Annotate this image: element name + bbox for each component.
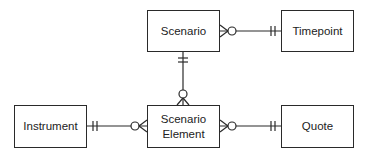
entity-label: Instrument: [23, 119, 77, 134]
relationship-instrument-scenario-element: [87, 120, 147, 132]
entity-quote: Quote: [281, 105, 354, 148]
entity-label: Timepoint: [292, 24, 342, 39]
entity-timepoint: Timepoint: [281, 10, 354, 52]
relationship-scenario-scenario-element: [177, 52, 189, 105]
entity-label: Quote: [302, 119, 333, 134]
relationship-scenario-timepoint: [220, 25, 281, 37]
relationship-scenario-element-quote: [220, 120, 281, 132]
entity-scenario-element: Scenario Element: [147, 105, 220, 148]
entity-label: Scenario: [161, 24, 206, 39]
entity-scenario: Scenario: [147, 10, 220, 52]
entity-label-line2: Element: [162, 127, 204, 142]
entity-instrument: Instrument: [14, 105, 87, 148]
entity-label-line1: Scenario: [161, 112, 206, 127]
